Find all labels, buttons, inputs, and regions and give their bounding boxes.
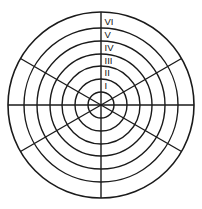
ring-label-vi: VI [105, 16, 114, 27]
ring-label-v: V [105, 29, 112, 40]
ring-label-ii: II [105, 67, 110, 78]
polar-grid-svg: VI V IV III II I [0, 0, 202, 209]
axis-lines-group [8, 12, 194, 198]
ring-label-iii: III [105, 55, 113, 66]
ring-label-i: I [105, 80, 108, 91]
ring-label-iv: IV [105, 42, 115, 53]
polar-grid-chart: VI V IV III II I [0, 0, 202, 209]
